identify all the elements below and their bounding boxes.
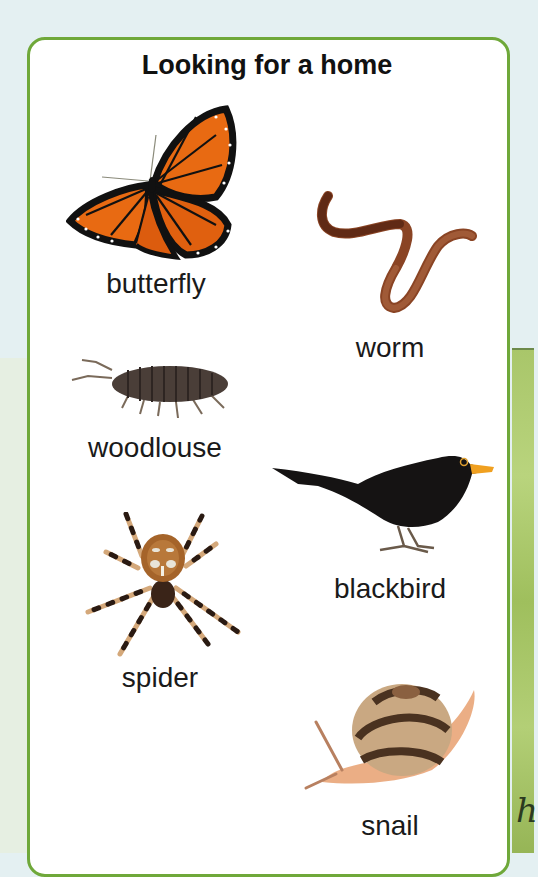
spider-icon: [80, 512, 245, 662]
animal-label: snail: [340, 810, 440, 842]
animal-label: worm: [330, 332, 450, 364]
animal-label: blackbird: [320, 573, 460, 605]
woodlouse-icon: [68, 356, 238, 428]
animal-label: spider: [100, 662, 220, 694]
animal-label: woodlouse: [70, 432, 240, 464]
butterfly-icon: [66, 105, 238, 263]
blackbird-icon: [268, 450, 496, 560]
margin-scribble: h: [516, 790, 538, 830]
animal-label: butterfly: [86, 268, 226, 300]
worm-icon: [310, 188, 478, 318]
snail-icon: [302, 678, 482, 794]
page-title: Looking for a home: [0, 50, 534, 81]
background-grass: [512, 350, 534, 853]
